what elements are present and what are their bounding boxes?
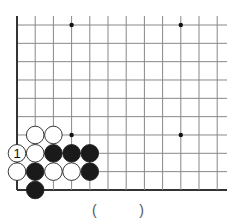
black-stone-circle: [45, 145, 63, 163]
go-board[interactable]: 1: [0, 0, 237, 222]
black-stone-circle: [26, 181, 44, 199]
white-stone[interactable]: [63, 163, 81, 181]
white-stone-circle: [45, 126, 63, 144]
white-stone[interactable]: [45, 163, 63, 181]
black-stone-circle: [26, 163, 44, 181]
answer-blank: ( ): [92, 201, 144, 219]
star-point-icon: [179, 23, 183, 27]
white-stone-circle: [45, 163, 63, 181]
black-stone[interactable]: [81, 163, 99, 181]
black-stone[interactable]: [63, 145, 81, 163]
close-paren: ): [139, 202, 144, 218]
white-stone[interactable]: [26, 145, 44, 163]
black-stone-circle: [81, 145, 99, 163]
white-stone[interactable]: [26, 126, 44, 144]
black-stone[interactable]: [45, 145, 63, 163]
black-stone[interactable]: [26, 181, 44, 199]
black-stone[interactable]: [81, 145, 99, 163]
white-stone[interactable]: [45, 126, 63, 144]
star-point-icon: [69, 23, 73, 27]
white-stone-circle: [8, 163, 26, 181]
open-paren: (: [92, 202, 97, 218]
white-stone-circle: [26, 145, 44, 163]
star-point-icon: [179, 133, 183, 137]
white-stone-circle: [63, 163, 81, 181]
black-stone[interactable]: [26, 163, 44, 181]
white-stone[interactable]: [8, 163, 26, 181]
black-stone-circle: [81, 163, 99, 181]
star-point-icon: [69, 133, 73, 137]
black-stone-circle: [63, 145, 81, 163]
white-stone-circle: [26, 126, 44, 144]
move-number-label: 1: [13, 146, 20, 161]
white-stone[interactable]: 1: [8, 145, 26, 163]
